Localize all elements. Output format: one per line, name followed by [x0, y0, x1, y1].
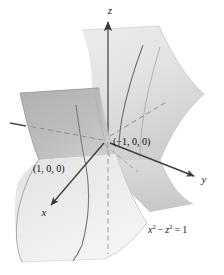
point-label-positive-one: (1, 0, 0) — [33, 163, 65, 175]
svg-text:x2−z2=1: x2−z2=1 — [147, 223, 187, 235]
x-axis-label: x — [41, 206, 47, 218]
point-label-negative-one: (−1, 0, 0) — [113, 136, 150, 148]
equation-exponent-1: 2 — [152, 223, 155, 230]
figure-container: z y x (−1, 0, 0) (1, 0, 0) x2−z2=1 — [0, 0, 224, 275]
hyperbolic-cylinder-figure: z y x (−1, 0, 0) (1, 0, 0) x2−z2=1 — [0, 0, 224, 275]
equation-equals: = — [175, 224, 181, 235]
equation-exponent-2: 2 — [169, 223, 172, 230]
equation-operator: − — [158, 224, 164, 235]
equation-label: x2−z2=1 — [147, 223, 187, 235]
negative-y-axis-solid-tail — [10, 123, 26, 126]
y-axis-label: y — [201, 173, 207, 185]
z-axis-label: z — [107, 4, 113, 16]
equation-rhs: 1 — [182, 224, 187, 235]
